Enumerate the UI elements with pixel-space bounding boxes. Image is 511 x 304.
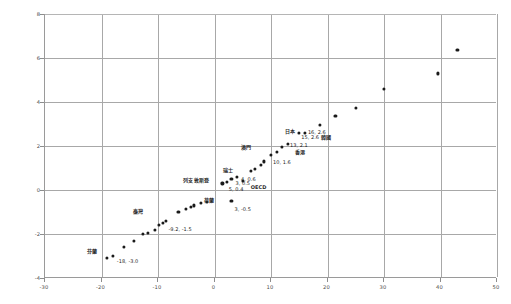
data-point <box>164 219 167 222</box>
data-point <box>158 224 161 227</box>
gridline-vertical <box>497 14 498 277</box>
data-point <box>106 257 109 260</box>
point-name-label: 韓國 <box>321 135 331 140</box>
data-point <box>221 182 224 185</box>
data-point <box>225 181 228 184</box>
y-axis-label: -2 <box>24 231 40 237</box>
x-axis-tick <box>214 278 215 282</box>
x-axis-label: -30 <box>40 284 49 290</box>
data-point <box>177 210 180 213</box>
data-point <box>263 160 266 163</box>
data-point <box>269 153 272 156</box>
x-axis-label: 0 <box>212 284 215 290</box>
x-axis-label: 20 <box>323 284 330 290</box>
point-name-label: 臺灣 <box>133 209 143 214</box>
y-axis-label: 6 <box>24 55 40 61</box>
point-name-label: OECD <box>251 185 267 190</box>
y-axis-label: 4 <box>24 99 40 105</box>
point-value-label: 3, -0.5 <box>234 207 250 212</box>
y-axis-tick <box>40 14 44 15</box>
point-name-label: 香港 <box>295 150 305 155</box>
x-axis-label: -20 <box>96 284 105 290</box>
x-axis-label: 30 <box>380 284 387 290</box>
gridline-horizontal <box>45 14 496 15</box>
x-axis-tick <box>157 278 158 282</box>
gridline-horizontal <box>45 102 496 103</box>
data-point <box>456 49 459 52</box>
data-point <box>111 254 114 257</box>
gridline-horizontal <box>45 190 496 191</box>
point-value-label: 4, 0.6 <box>241 177 256 182</box>
point-value-label: 16, 2.6 <box>308 130 326 135</box>
data-point <box>123 246 126 249</box>
point-name-label: 日本 <box>285 129 295 134</box>
y-axis-label: 8 <box>24 11 40 17</box>
y-axis-tick <box>40 102 44 103</box>
data-point <box>254 168 257 171</box>
data-point <box>161 221 164 224</box>
data-point <box>281 146 284 149</box>
data-point <box>382 87 385 90</box>
scatter-chart: 芬蘭-18, -3.0臺灣-9.2, -1.5荷蘭3, -0.5列支敦斯登3, … <box>0 0 511 304</box>
y-axis-label: -4 <box>24 275 40 281</box>
data-point <box>142 232 145 235</box>
data-point <box>334 115 337 118</box>
y-axis-tick <box>40 190 44 191</box>
data-point <box>249 170 252 173</box>
point-name-label: 列支敦斯登 <box>183 178 208 183</box>
gridline-horizontal <box>45 58 496 59</box>
data-point <box>259 163 262 166</box>
point-value-label: 10, 1.6 <box>273 160 291 165</box>
point-value-label: 15, 2.6 <box>301 135 319 140</box>
point-value-label: -9.2, -1.5 <box>169 227 192 232</box>
plot-area: 芬蘭-18, -3.0臺灣-9.2, -1.5荷蘭3, -0.5列支敦斯登3, … <box>44 14 496 278</box>
x-axis-tick <box>101 278 102 282</box>
y-axis-tick <box>40 278 44 279</box>
x-axis-label: 10 <box>267 284 274 290</box>
x-axis-tick <box>270 278 271 282</box>
y-axis-tick <box>40 146 44 147</box>
gridline-horizontal <box>45 234 496 235</box>
gridline-horizontal <box>45 146 496 147</box>
x-axis-tick <box>383 278 384 282</box>
x-axis-tick <box>496 278 497 282</box>
y-axis-label: 2 <box>24 143 40 149</box>
x-axis-label: 50 <box>493 284 500 290</box>
data-point <box>275 150 278 153</box>
data-point <box>318 124 321 127</box>
data-point <box>236 175 239 178</box>
point-name-label: 澳門 <box>241 145 251 150</box>
x-axis-tick <box>440 278 441 282</box>
point-name-label: 芬蘭 <box>87 249 97 254</box>
y-axis-tick <box>40 234 44 235</box>
y-axis-tick <box>40 58 44 59</box>
x-axis-label: -10 <box>153 284 162 290</box>
data-point <box>133 239 136 242</box>
y-axis-label: 0 <box>24 187 40 193</box>
x-axis-label: 40 <box>436 284 443 290</box>
data-point <box>185 207 188 210</box>
data-point <box>153 228 156 231</box>
point-name-label: 荷蘭 <box>204 198 214 203</box>
data-point <box>193 204 196 207</box>
point-value-label: 13, 2.1 <box>290 143 308 148</box>
data-point <box>230 199 233 202</box>
point-value-label: 5, 0.4 <box>229 187 244 192</box>
point-name-label: 瑞士 <box>223 168 233 173</box>
x-axis-tick <box>327 278 328 282</box>
data-point <box>354 106 357 109</box>
data-point <box>437 72 440 75</box>
data-point <box>230 177 233 180</box>
x-axis-tick <box>44 278 45 282</box>
data-point <box>199 202 202 205</box>
point-value-label: -18, -3.0 <box>117 259 139 264</box>
